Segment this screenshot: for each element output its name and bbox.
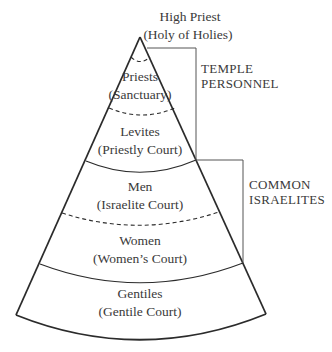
group-label-temple-personnel: TEMPLE PERSONNEL <box>201 61 279 91</box>
level-place: (Israelite Court) <box>80 196 200 214</box>
level-label-priests: Priests (Sanctuary) <box>95 68 185 104</box>
level-name: Levites <box>80 123 200 141</box>
group-line1: TEMPLE <box>201 61 279 76</box>
group-line1: COMMON <box>249 177 325 192</box>
level-place: (Gentile Court) <box>80 303 200 321</box>
group-line2: PERSONNEL <box>201 76 279 91</box>
level-place: (Sanctuary) <box>95 86 185 104</box>
level-label-gentiles: Gentiles (Gentile Court) <box>80 285 200 321</box>
level-place: (Holy of Holies) <box>136 26 240 44</box>
level-name: High Priest <box>140 8 240 26</box>
boundary-priestly-israelite-court <box>86 160 196 172</box>
level-label-levites: Levites (Priestly Court) <box>80 123 200 159</box>
group-label-common-israelites: COMMON ISRAELITES <box>249 177 325 207</box>
level-name: Priests <box>95 68 185 86</box>
level-name: Women <box>75 232 205 250</box>
level-place: (Priestly Court) <box>80 141 200 159</box>
level-label-men: Men (Israelite Court) <box>80 178 200 214</box>
group-line2: ISRAELITES <box>249 192 325 207</box>
boundary-holy-of-holies-sanctuary <box>131 57 150 62</box>
level-name: Men <box>80 178 200 196</box>
level-label-high-priest: High Priest (Holy of Holies) <box>140 8 240 44</box>
boundary-sanctuary-priestly-court <box>109 108 175 115</box>
level-name: Gentiles <box>80 285 200 303</box>
level-label-women: Women (Women’s Court) <box>75 232 205 268</box>
level-place: (Women’s Court) <box>75 250 205 268</box>
